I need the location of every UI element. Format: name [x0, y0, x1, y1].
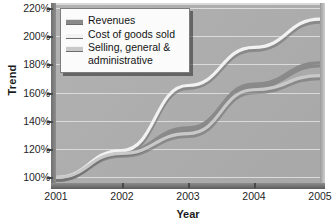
x-tick-label: 2002 — [99, 190, 145, 202]
plot-right-edge — [320, 3, 325, 189]
legend-swatch-revenues — [66, 19, 83, 24]
legend-label-line-1: Selling, general & — [88, 41, 170, 53]
x-tick-mark — [254, 183, 256, 188]
legend-swatch-cost-of-goods-sold — [66, 33, 83, 38]
legend-swatch-selling-general-administrative — [66, 46, 83, 51]
legend-label-revenues: Revenues — [88, 14, 135, 27]
x-tick-label: 2003 — [165, 190, 211, 202]
legend-label-selling-general-administrative: Selling, general & administrative — [88, 41, 170, 66]
legend-label-line-2: administrative — [88, 54, 170, 67]
x-tick-label: 2005 — [297, 190, 333, 202]
chart-legend: Revenues Cost of goods sold Selling, gen… — [60, 8, 190, 73]
legend-item-selling-general-administrative: Selling, general & administrative — [66, 41, 183, 66]
legend-item-cost-of-goods-sold: Cost of goods sold — [66, 28, 183, 41]
y-tick-label: 200% — [4, 31, 50, 41]
x-axis-title: Year — [56, 208, 320, 220]
x-tick-mark — [122, 183, 124, 188]
x-tick-mark — [188, 183, 190, 188]
legend-label-cost-of-goods-sold: Cost of goods sold — [88, 28, 175, 41]
y-tick-label: 100% — [4, 172, 50, 182]
y-tick-label: 220% — [4, 3, 50, 13]
legend-item-revenues: Revenues — [66, 14, 183, 27]
y-tick-label: 140% — [4, 116, 50, 126]
y-tick-label: 120% — [4, 144, 50, 154]
line-chart: 100%120%140%160%180%200%220% 20012002200… — [0, 0, 333, 223]
y-axis-title: Trend — [6, 50, 18, 110]
x-tick-label: 2004 — [231, 190, 277, 202]
x-tick-label: 2001 — [33, 190, 79, 202]
